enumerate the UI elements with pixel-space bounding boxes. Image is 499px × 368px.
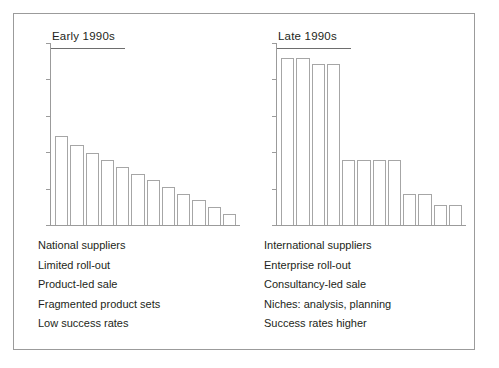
bar-group-early	[55, 44, 236, 225]
bar	[177, 194, 190, 225]
y-axis-tick	[46, 225, 51, 226]
note-line: Fragmented product sets	[38, 295, 238, 315]
bar	[116, 167, 129, 225]
y-axis-tick	[272, 79, 277, 80]
bar	[147, 180, 160, 225]
notes-list-late: International suppliersEnterprise roll-o…	[264, 236, 474, 334]
bar	[86, 153, 99, 225]
bar	[70, 145, 83, 225]
y-axis-tick	[46, 43, 51, 44]
note-line: International suppliers	[264, 236, 474, 256]
x-axis-baseline-early	[50, 225, 240, 226]
note-line: Product-led sale	[38, 275, 238, 295]
bar	[131, 174, 144, 225]
y-axis-tick	[46, 189, 51, 190]
y-axis-line-late	[276, 44, 277, 226]
y-axis-line-early	[50, 44, 51, 226]
bar	[418, 194, 431, 225]
y-axis-tick	[272, 43, 277, 44]
note-line: Low success rates	[38, 314, 238, 334]
bar	[296, 58, 309, 225]
bar	[357, 160, 370, 225]
bar	[101, 160, 114, 225]
y-axis-tick	[272, 189, 277, 190]
bar	[373, 160, 386, 225]
note-line: Niches: analysis, planning	[264, 295, 474, 315]
chart-title-early: Early 1990s	[52, 30, 115, 42]
y-axis-tick	[272, 225, 277, 226]
notes-list-early: National suppliersLimited roll-outProduc…	[38, 236, 238, 334]
bar	[388, 160, 401, 225]
y-axis-tick	[272, 116, 277, 117]
bar	[312, 64, 325, 225]
note-line: Consultancy-led sale	[264, 275, 474, 295]
note-line: Limited roll-out	[38, 256, 238, 276]
bar	[223, 214, 236, 225]
bar	[55, 136, 68, 225]
bar	[162, 187, 175, 225]
y-axis-tick	[272, 152, 277, 153]
note-line: Enterprise roll-out	[264, 256, 474, 276]
plot-area-late	[276, 44, 462, 226]
bar	[434, 205, 447, 225]
bar	[327, 64, 340, 225]
chart-title-late: Late 1990s	[278, 30, 337, 42]
y-axis-tick	[46, 79, 51, 80]
bar	[192, 200, 205, 225]
plot-area-early	[50, 44, 236, 226]
x-axis-baseline-late	[276, 225, 466, 226]
bar	[342, 160, 355, 225]
y-axis-tick	[46, 152, 51, 153]
bar	[403, 194, 416, 225]
y-axis-tick	[46, 116, 51, 117]
note-line: National suppliers	[38, 236, 238, 256]
bar-group-late	[281, 44, 462, 225]
figure-border: Early 1990s National suppliersLimited ro…	[13, 13, 475, 350]
note-line: Success rates higher	[264, 314, 474, 334]
bar	[281, 58, 294, 225]
bar	[208, 207, 221, 225]
bar	[449, 205, 462, 225]
